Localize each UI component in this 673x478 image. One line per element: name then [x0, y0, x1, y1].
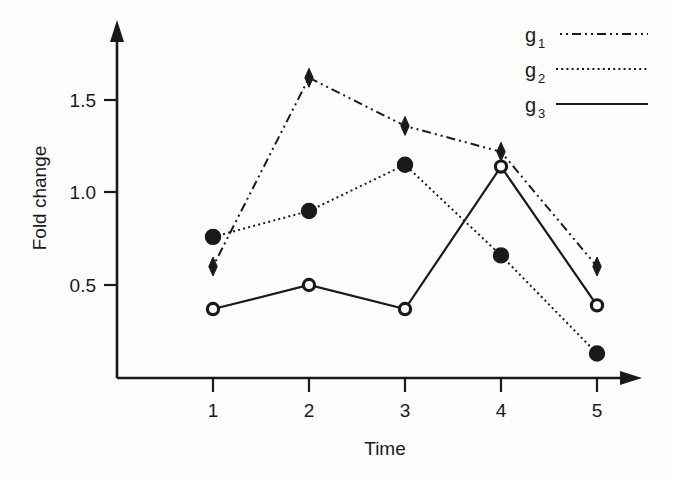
legend-item-g3[interactable]: g 3	[525, 94, 648, 121]
x-tick-label-1: 1	[208, 400, 219, 421]
data-point-g3-x4[interactable]	[495, 161, 506, 172]
series-path-g3	[213, 167, 597, 309]
data-point-g3-x1[interactable]	[207, 303, 218, 314]
y-axis-arrowhead	[110, 20, 124, 42]
x-axis-title: Time	[364, 438, 406, 459]
legend-item-g1[interactable]: g 1	[525, 24, 648, 51]
legend-label-g3: g	[525, 94, 536, 116]
y-axis-group: 1.5 1.0 0.5 Fold change	[29, 20, 124, 378]
data-point-g1-x2[interactable]	[305, 68, 313, 87]
legend: g 1 g 2 g 3	[525, 24, 648, 121]
data-point-g3-x5[interactable]	[591, 300, 602, 311]
legend-sub-g2: 2	[538, 71, 545, 86]
x-tick-label-3: 3	[400, 400, 411, 421]
data-point-g3-x2[interactable]	[303, 279, 314, 290]
series-g3	[207, 161, 602, 315]
y-tick-label-0.5: 0.5	[70, 275, 96, 296]
legend-item-g2[interactable]: g 2	[525, 59, 648, 86]
x-axis-arrowhead	[620, 371, 642, 385]
legend-label-g1: g	[525, 24, 536, 46]
data-point-g1-x5[interactable]	[593, 257, 601, 276]
series-path-g2	[213, 165, 597, 354]
y-tick-label-1.0: 1.0	[70, 182, 96, 203]
data-point-g2-x1[interactable]	[206, 229, 221, 244]
line-chart-canvas: 1.5 1.0 0.5 Fold change 1 2 3 4 5 Time	[0, 0, 673, 478]
legend-label-g2: g	[525, 59, 536, 81]
x-tick-label-4: 4	[496, 400, 507, 421]
x-axis-group: 1 2 3 4 5 Time	[117, 371, 642, 459]
data-point-g2-x4[interactable]	[494, 248, 509, 263]
data-point-g3-x3[interactable]	[399, 303, 410, 314]
data-point-g1-x3[interactable]	[401, 116, 409, 135]
data-point-g1-x4[interactable]	[497, 142, 505, 161]
chart-figure: 1.5 1.0 0.5 Fold change 1 2 3 4 5 Time	[0, 0, 673, 478]
data-point-g2-x2[interactable]	[302, 204, 317, 219]
data-point-g2-x3[interactable]	[398, 157, 413, 172]
legend-sub-g3: 3	[538, 106, 545, 121]
x-tick-label-2: 2	[304, 400, 315, 421]
series-g2	[206, 157, 605, 361]
y-axis-title: Fold change	[29, 146, 50, 251]
legend-sub-g1: 1	[538, 36, 545, 51]
x-tick-label-5: 5	[592, 400, 603, 421]
y-tick-label-1.5: 1.5	[70, 90, 96, 111]
data-point-g2-x5[interactable]	[590, 346, 605, 361]
